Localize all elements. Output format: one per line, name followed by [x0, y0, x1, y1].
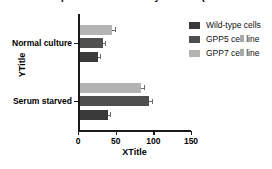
- x-axis-tick: [191, 131, 192, 135]
- x-axis-tick: [116, 131, 117, 135]
- y-axis-category-label: Serum starved: [13, 96, 72, 106]
- bar: [80, 96, 149, 106]
- bar: [80, 38, 103, 48]
- plot-area: 050100150Normal cultureSerum starved: [78, 14, 191, 130]
- legend-item[interactable]: Wild-type cells: [189, 18, 261, 32]
- bar: [80, 25, 112, 35]
- bar: [80, 52, 98, 62]
- legend-item[interactable]: GPP7 cell line: [189, 46, 261, 60]
- y-axis-tick: [74, 101, 78, 102]
- x-axis-title: XTitle: [78, 147, 191, 157]
- chart-title: Comparison of confluency for cells (mock…: [40, 0, 240, 2]
- error-bar-cap: [144, 85, 145, 90]
- x-axis-tick: [153, 131, 154, 135]
- bar: [80, 110, 109, 120]
- y-axis-tick: [74, 43, 78, 44]
- x-axis-tick-label: 0: [63, 136, 93, 146]
- error-bar-cap: [110, 112, 111, 117]
- chart-legend: Wild-type cellsGPP5 cell lineGPP7 cell l…: [189, 18, 261, 60]
- error-bar-cap: [105, 41, 106, 46]
- bar: [80, 83, 142, 93]
- legend-swatch-icon: [189, 36, 200, 43]
- error-bar-cap: [115, 27, 116, 32]
- x-axis-line: [78, 130, 191, 132]
- legend-swatch-icon: [189, 50, 200, 57]
- y-axis-title: YTitle: [17, 35, 27, 95]
- legend-item-label: Wild-type cells: [206, 20, 261, 30]
- error-bar-cap: [152, 99, 153, 104]
- legend-item[interactable]: GPP5 cell line: [189, 32, 261, 46]
- error-bar-cap: [100, 54, 101, 59]
- x-axis-tick-label: 150: [176, 136, 206, 146]
- legend-item-label: GPP7 cell line: [206, 48, 259, 58]
- legend-swatch-icon: [189, 22, 200, 29]
- x-axis-tick-label: 100: [138, 136, 168, 146]
- x-axis-tick: [78, 131, 79, 135]
- x-axis-tick-label: 50: [101, 136, 131, 146]
- legend-item-label: GPP5 cell line: [206, 34, 259, 44]
- bar-chart-figure: Comparison of confluency for cells (mock…: [0, 0, 272, 169]
